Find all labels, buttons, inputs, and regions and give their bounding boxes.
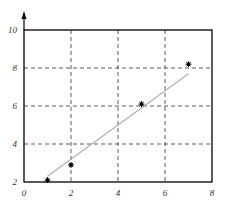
x-tick-label: 2 [69, 188, 74, 198]
grid-lines [24, 30, 212, 182]
y-tick-label: 8 [13, 63, 18, 73]
y-tick-label: 10 [8, 25, 18, 35]
y-axis-tick-labels: 246810 [8, 25, 18, 187]
y-tick-label: 6 [13, 101, 18, 111]
x-tick-label: 0 [22, 188, 27, 198]
asterisk-marker-icon [139, 101, 145, 107]
y-tick-label: 2 [13, 177, 18, 187]
asterisk-marker-icon [186, 61, 192, 67]
x-tick-label: 4 [116, 188, 121, 198]
y-axis-arrow-icon [22, 11, 27, 30]
y-tick-label: 4 [13, 139, 18, 149]
scatter-chart: 02468 246810 [0, 0, 225, 206]
x-tick-label: 8 [210, 188, 215, 198]
asterisk-marker-icon [68, 162, 74, 168]
x-axis-tick-labels: 02468 [22, 188, 215, 198]
x-tick-label: 6 [163, 188, 168, 198]
arrow-head [22, 11, 27, 19]
